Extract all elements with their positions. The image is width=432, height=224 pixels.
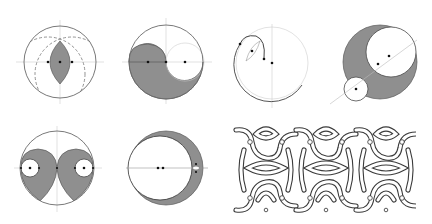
panel-yin-yang	[122, 18, 212, 104]
panel-nested-circles	[330, 25, 417, 104]
diagram-canvas	[0, 0, 432, 224]
panel-vesica	[11, 20, 109, 111]
panel-knotwork	[236, 129, 416, 212]
diagram-plate	[0, 0, 432, 224]
panel-twin-teardrops	[14, 126, 102, 212]
panel-spiral	[234, 24, 308, 108]
panel-crescent	[126, 131, 208, 205]
